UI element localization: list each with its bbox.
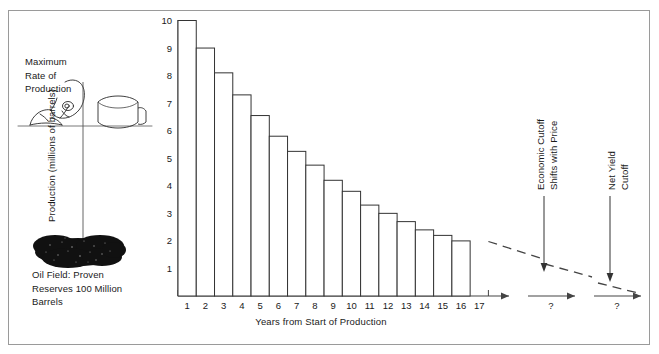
figure-container: Maximum Rate of Production Oil Field: Pr… [0,0,659,354]
oil-field-illustration: Maximum Rate of Production Oil Field: Pr… [10,30,160,310]
oil-field-label: Oil Field: Proven Reserves 100 Million B… [32,268,122,309]
max-rate-label: Maximum Rate of Production [25,55,71,96]
